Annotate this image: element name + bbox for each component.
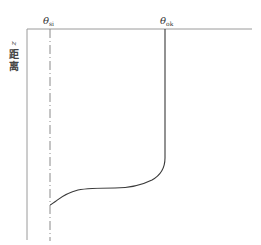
diagram-canvas: θsi θok <box>0 0 261 245</box>
y-axis-text: 距离 <box>8 49 19 73</box>
theta-ok-label: θok <box>160 15 174 27</box>
y-axis-symbol: z <box>8 38 19 50</box>
moisture-profile-curve <box>50 29 165 205</box>
theta-si-label: θsi <box>43 15 54 27</box>
y-axis-label: z 距离 <box>7 38 19 75</box>
